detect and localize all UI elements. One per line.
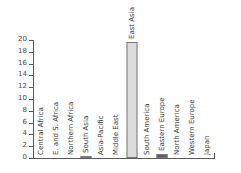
y-axis-tick: 18	[0, 52, 33, 53]
y-axis-tick: 8	[0, 111, 33, 112]
y-axis-tick-label: 0	[23, 153, 27, 162]
category-label-text: Middle East	[112, 115, 120, 155]
category-label-text: South Asia	[82, 116, 90, 153]
y-axis-tick-label: 16	[18, 59, 27, 68]
y-axis-tick: 14	[0, 75, 33, 76]
bar-chart: 02468101214161820 Central AfricaE. and S…	[0, 0, 241, 173]
y-axis-tick: 12	[0, 87, 33, 88]
y-axis-tick: 0	[0, 158, 33, 159]
category-label-text: E. and S. Africa	[52, 102, 60, 155]
y-axis-tick: 4	[0, 134, 33, 135]
y-axis-tick: 6	[0, 123, 33, 124]
y-axis-tick: 10	[0, 99, 33, 100]
category-label-text: Japan	[203, 135, 211, 155]
category-label-text: Central Africa	[37, 107, 45, 155]
category-label-text: East Asia	[128, 7, 136, 39]
y-axis-tick-label: 18	[18, 47, 27, 56]
y-axis-tick: 20	[0, 40, 33, 41]
category-label-text: Eastern Europe	[158, 98, 166, 151]
category-label-text: North America	[173, 104, 181, 155]
x-axis-category-labels: Central AfricaE. and S. AfricaNorthern A…	[33, 0, 215, 158]
category-label-text: Asia-Pacific	[97, 116, 105, 155]
y-axis-tick-mark	[29, 158, 33, 159]
y-axis-tick-label: 14	[18, 70, 27, 79]
category-label-text: South America	[143, 104, 151, 155]
y-axis-tick-label: 4	[23, 129, 27, 138]
y-axis-tick: 16	[0, 64, 33, 65]
y-axis-tick: 2	[0, 146, 33, 147]
category-label-text: Northern Africa	[67, 102, 75, 155]
x-axis-line	[33, 158, 215, 159]
y-axis-tick-label: 12	[18, 82, 27, 91]
category-label-text: Western Europe	[188, 99, 196, 155]
y-axis-tick-label: 2	[23, 141, 27, 150]
y-axis-tick-label: 10	[18, 94, 27, 103]
y-axis-tick-label: 6	[23, 118, 27, 127]
y-axis-tick-label: 20	[18, 35, 27, 44]
y-axis-tick-label: 8	[23, 106, 27, 115]
y-axis-ticks: 02468101214161820	[0, 0, 33, 173]
